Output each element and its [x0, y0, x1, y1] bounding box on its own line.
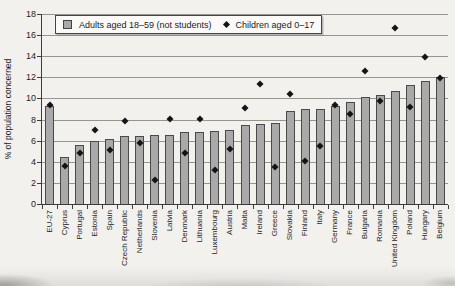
children-marker [166, 115, 173, 122]
adults-bar [301, 109, 310, 204]
adults-bar [45, 106, 54, 204]
adults-bar [150, 135, 159, 204]
x-axis-tick [147, 205, 148, 209]
x-axis-tick [162, 205, 163, 209]
y-axis-tick-label: 10 [16, 93, 36, 103]
x-axis-tick [418, 205, 419, 209]
y-axis-tick-label: 16 [16, 30, 36, 40]
legend-label-children: Children aged 0–17 [236, 20, 315, 30]
y-axis-tick-label: 12 [16, 72, 36, 82]
y-axis-tick-label: 18 [16, 9, 36, 19]
x-axis-tick [72, 205, 73, 209]
adults-bar [391, 91, 400, 204]
x-axis-tick [388, 205, 389, 209]
x-axis-tick [42, 205, 43, 209]
chart-canvas: % of population concerned Adults aged 18… [0, 0, 455, 286]
x-axis-label: Netherlands [135, 210, 145, 282]
x-axis-label: Italy [315, 210, 325, 282]
x-axis-tick [313, 205, 314, 209]
adults-bar [180, 132, 189, 204]
children-marker [362, 67, 369, 74]
x-axis-tick [192, 205, 193, 209]
x-axis-label: Malta [240, 210, 250, 282]
x-axis-tick [298, 205, 299, 209]
x-axis-label: France [345, 210, 355, 282]
adults-bar [331, 106, 340, 204]
x-axis-label: Ireland [255, 210, 265, 282]
legend: Adults aged 18–59 (not students) Childre… [55, 15, 322, 34]
x-axis-tick [237, 205, 238, 209]
x-axis-tick [448, 205, 449, 209]
gridline [42, 98, 448, 99]
adults-bar [361, 97, 370, 204]
adults-bar [165, 135, 174, 204]
adults-bar [195, 132, 204, 204]
x-axis-label: Cyprus [60, 210, 70, 282]
x-axis-label: Portugal [75, 210, 85, 282]
y-axis-tick-label: 6 [16, 136, 36, 146]
adults-bar [406, 85, 415, 204]
legend-diamond-marker [223, 21, 230, 28]
y-axis-tick-label: 0 [16, 199, 36, 209]
adults-bar [286, 111, 295, 204]
x-axis-tick [253, 205, 254, 209]
x-axis-tick [177, 205, 178, 209]
y-axis-tick-label: 4 [16, 157, 36, 167]
y-axis-tick-label: 14 [16, 51, 36, 61]
x-axis-label: Belgium [435, 210, 445, 282]
x-axis-tick [207, 205, 208, 209]
x-axis-label: Bulgaria [360, 210, 370, 282]
children-marker [422, 54, 429, 61]
x-axis-tick [87, 205, 88, 209]
x-axis-tick [343, 205, 344, 209]
x-axis-tick [102, 205, 103, 209]
x-axis-tick [283, 205, 284, 209]
x-axis-label: Estonia [90, 210, 100, 282]
x-axis-tick [57, 205, 58, 209]
x-axis-label: Finland [300, 210, 310, 282]
x-axis-tick [268, 205, 269, 209]
x-axis-label: Spain [105, 210, 115, 282]
children-marker [196, 115, 203, 122]
x-axis-label: Lithuania [195, 210, 205, 282]
y-axis-tick-label: 2 [16, 178, 36, 188]
x-axis-label: Latvia [165, 210, 175, 282]
x-axis-tick [403, 205, 404, 209]
children-marker [287, 91, 294, 98]
children-marker [241, 104, 248, 111]
x-axis-label: EU-27 [45, 210, 55, 282]
x-axis-label: Germany [330, 210, 340, 282]
adults-bar [120, 136, 129, 204]
adults-bar [316, 109, 325, 204]
adults-bar [376, 95, 385, 204]
children-marker [121, 117, 128, 124]
gridline [42, 120, 448, 121]
x-axis-tick [358, 205, 359, 209]
x-axis-label: United Kingdom [390, 210, 400, 282]
gridline [42, 56, 448, 57]
adults-bar [256, 124, 265, 204]
x-axis-label: Austria [225, 210, 235, 282]
children-marker [392, 24, 399, 31]
children-marker [91, 127, 98, 134]
adults-bar [436, 77, 445, 204]
x-axis-tick [328, 205, 329, 209]
x-axis-tick [132, 205, 133, 209]
x-axis-label: Luxembourg [210, 210, 220, 282]
x-axis-tick [117, 205, 118, 209]
x-axis-tick [222, 205, 223, 209]
x-axis-tick [373, 205, 374, 209]
gridline [42, 35, 448, 36]
adults-bar [90, 141, 99, 204]
x-axis-label: Greece [270, 210, 280, 282]
x-axis-label: Slovakia [285, 210, 295, 282]
x-axis-label: Denmark [180, 210, 190, 282]
y-axis-title: % of population concerned [3, 39, 14, 179]
x-axis-label: Hungary [420, 210, 430, 282]
gridline [42, 77, 448, 78]
x-axis-label: Slovenia [150, 210, 160, 282]
adults-bar [421, 81, 430, 205]
y-axis-tick-label: 8 [16, 115, 36, 125]
children-marker [256, 80, 263, 87]
legend-square-marker [63, 20, 72, 29]
